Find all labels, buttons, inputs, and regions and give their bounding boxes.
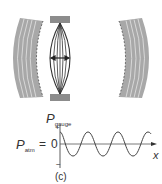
figure-caption: (c) — [55, 172, 67, 182]
y-tick-plus: + — [55, 124, 60, 132]
baseline-label: Patm — [16, 138, 35, 153]
right-wavefronts — [119, 18, 149, 98]
left-wavefronts — [13, 18, 43, 98]
top-clamp — [50, 16, 70, 23]
pressure-graph — [60, 125, 157, 168]
baseline-value: 0 — [51, 138, 58, 150]
y-tick-minus: − — [56, 161, 61, 169]
diagram-canvas — [0, 0, 162, 184]
x-axis-label: x — [153, 150, 159, 161]
x-axis-arrow-icon — [151, 142, 157, 146]
bottom-clamp — [50, 94, 70, 101]
baseline-equals: = — [39, 138, 46, 150]
